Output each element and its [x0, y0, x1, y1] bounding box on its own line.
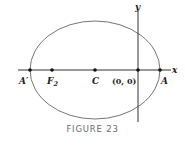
label-a-prime: A′ [18, 76, 29, 86]
x-axis-label: x [171, 65, 178, 75]
point-f2 [50, 68, 54, 72]
label-a: A [160, 76, 168, 86]
label-f2: F2 [46, 76, 58, 88]
y-axis-label: y [134, 2, 141, 12]
point-a [158, 68, 162, 72]
point-a-prime [28, 68, 32, 72]
point-origin [136, 68, 140, 72]
label-origin: (0, 0) [112, 76, 136, 86]
point-c [93, 68, 97, 72]
label-c: C [92, 76, 100, 86]
figure-caption: FIGURE 23 [0, 124, 185, 134]
